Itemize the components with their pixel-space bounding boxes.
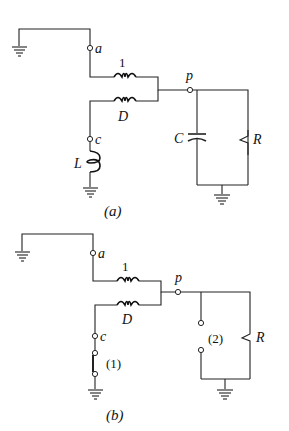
wire-p-to-r	[193, 90, 248, 155]
coil-upper-icon	[114, 74, 136, 78]
label-p: p	[174, 270, 182, 285]
circuit-b: a 1 D p (2) R c	[15, 234, 265, 424]
switch-2-contact-top[interactable]	[198, 320, 203, 325]
wire-a-to-winding	[90, 51, 114, 77]
label-winding-1: 1	[119, 55, 126, 70]
ground-icon	[83, 188, 98, 197]
inductor-icon	[87, 151, 100, 172]
wire-ground-to-a	[19, 29, 90, 46]
label-a: a	[95, 41, 102, 56]
wire-lower-winding-right	[139, 292, 161, 305]
terminal-p	[175, 289, 180, 294]
label-D: D	[121, 312, 132, 327]
label-C: C	[174, 131, 184, 146]
resistor-icon	[242, 329, 250, 379]
ground-icon	[15, 252, 30, 261]
terminal-a	[90, 250, 95, 255]
terminal-a	[87, 45, 92, 50]
wire-p-to-r	[181, 292, 250, 329]
wire-lower-winding-right	[136, 90, 158, 101]
ground-icon	[12, 47, 27, 56]
coil-upper-icon	[117, 278, 139, 282]
wire-winding-to-p	[139, 281, 176, 292]
wire-a-to-winding	[93, 256, 117, 281]
coil-lower-icon	[114, 98, 136, 102]
resistor-icon	[240, 130, 248, 185]
caption-b: (b)	[106, 407, 124, 424]
coil-lower-icon	[117, 302, 139, 306]
ground-icon	[217, 390, 233, 399]
label-D: D	[117, 109, 128, 124]
terminal-c	[87, 136, 92, 141]
label-c: c	[95, 132, 102, 147]
wire-lower-winding-left	[90, 101, 114, 137]
label-c: c	[100, 329, 107, 344]
caption-a: (a)	[104, 203, 122, 220]
wire-winding-to-p	[136, 77, 188, 90]
terminal-c	[92, 333, 97, 338]
ground-icon	[88, 390, 103, 399]
label-R: R	[255, 330, 265, 345]
label-p: p	[185, 68, 193, 83]
label-L: L	[73, 156, 82, 171]
terminal-p	[187, 87, 192, 92]
ground-icon	[214, 195, 230, 204]
circuit-diagrams: a 1 D p C R	[0, 0, 289, 431]
wire-ground-to-a	[22, 234, 93, 251]
switch-1-contact-top[interactable]	[92, 350, 97, 355]
circuit-a: a 1 D p C R	[12, 29, 262, 220]
label-a: a	[98, 246, 105, 261]
switch-2-contact-bottom[interactable]	[198, 347, 203, 352]
label-switch-2: (2)	[208, 331, 223, 346]
label-R: R	[252, 132, 262, 147]
switch-1-contact-bottom[interactable]	[92, 371, 97, 376]
label-switch-1: (1)	[106, 356, 121, 371]
label-winding-1: 1	[122, 259, 129, 274]
